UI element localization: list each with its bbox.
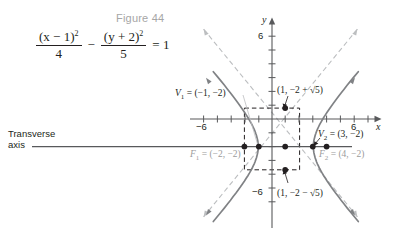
asymptote-arrow-top-left — [204, 29, 209, 35]
point-conjugate-top — [282, 105, 288, 111]
point-focus-1 — [242, 144, 248, 150]
point-vertex-1 — [256, 144, 262, 150]
point-center — [282, 144, 288, 150]
transverse-axis-caption-line2: axis — [8, 139, 55, 150]
vertex-2-label: V2 = (3, −2) — [318, 129, 363, 142]
vertex-2-coordinates: = (3, −2) — [327, 129, 363, 139]
transverse-axis-caption-line1: Transverse — [8, 128, 55, 139]
branch-arrow-upper-left — [206, 78, 212, 85]
focus-1-coordinates: = (−2, −2) — [199, 149, 240, 159]
figure-container: Figure 44 (x − 1)2 4 − (y + 2)2 5 = 1 — [0, 0, 409, 249]
focus-2-label: F2 = (4, −2) — [319, 149, 364, 162]
y-axis-arrow — [269, 18, 275, 25]
point-vertex-2 — [310, 144, 316, 150]
point-conjugate-bottom — [282, 167, 288, 173]
vertex-1-label: V1 = (−1, −2) — [175, 88, 226, 101]
conjugate-point-top-label: (1, −2 + √5) — [277, 85, 323, 95]
x-tick-label-neg6: −6 — [196, 121, 207, 132]
y-tick-label-6: 6 — [258, 30, 263, 41]
focus-2-coordinates: = (4, −2) — [328, 149, 364, 159]
transverse-axis-caption: Transverse axis — [8, 128, 55, 150]
focus-1-label: F1 = (−2, −2) — [190, 149, 241, 162]
conjugate-point-bottom-label: (1, −2 − √5) — [277, 188, 323, 198]
x-axis-label: x — [376, 121, 380, 132]
y-tick-label-neg6: −6 — [252, 186, 263, 197]
y-axis-label: y — [262, 14, 266, 25]
vertex-1-coordinates: = (−1, −2) — [184, 88, 225, 98]
asymptote-arrow-top-right — [352, 29, 357, 35]
